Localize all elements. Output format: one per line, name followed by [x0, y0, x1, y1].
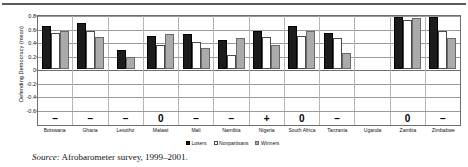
bar: [42, 26, 51, 70]
significance-sign: +: [250, 112, 285, 125]
significance-sign: –: [38, 112, 73, 125]
category-label: Nigeria: [249, 127, 284, 141]
bar-group: [355, 16, 390, 111]
bar-group: [426, 16, 460, 111]
category-label: Malawi: [143, 127, 178, 141]
bar: [306, 31, 315, 69]
significance-sign: –: [73, 112, 108, 125]
category-label: Lesotho: [108, 127, 143, 141]
category-label: South Africa: [284, 127, 319, 141]
bars: [214, 16, 248, 111]
category-label: Ghana: [72, 127, 107, 141]
figure-container: Defending Democracy (mean) 0.80.60.40.20…: [0, 0, 468, 167]
bar-group: [109, 16, 144, 111]
y-tick-label: -0.2: [27, 81, 36, 87]
bars: [426, 16, 460, 111]
bar: [288, 26, 297, 69]
bar-group: [179, 16, 214, 111]
y-tick-label: 0: [33, 67, 36, 73]
y-tick-label: 0.8: [28, 13, 36, 19]
bar: [236, 38, 245, 69]
significance-sign: [355, 112, 390, 125]
category-label: Uganda: [355, 127, 390, 141]
bar-groups: [38, 16, 460, 111]
bar: [412, 18, 421, 69]
significance-sign: –: [109, 112, 144, 125]
significance-sign: 0: [285, 112, 320, 125]
bars: [320, 16, 354, 111]
category-label: Zambia: [390, 127, 425, 141]
bar: [253, 31, 262, 70]
bar-group: [38, 16, 73, 111]
bar: [342, 53, 351, 70]
bar-group: [73, 16, 108, 111]
bar: [77, 23, 86, 69]
category-label: Namibia: [214, 127, 249, 141]
source-label: Source:: [32, 152, 60, 162]
y-tick-label: -0.6: [27, 108, 36, 114]
bar: [447, 38, 456, 70]
y-axis-title: Defending Democracy (mean): [18, 0, 24, 139]
bar: [297, 36, 306, 69]
bar-group: [214, 16, 249, 111]
legend-item: Winners: [255, 140, 279, 146]
bar: [156, 45, 165, 69]
significance-sign: –: [214, 112, 249, 125]
bar: [183, 34, 192, 69]
bar: [60, 31, 69, 70]
legend-item: Losers: [186, 140, 207, 146]
bar: [324, 33, 333, 69]
bar: [201, 48, 210, 69]
bar: [192, 42, 201, 70]
bar: [394, 17, 403, 70]
bar: [403, 20, 412, 70]
bar-group: [144, 16, 179, 111]
category-label: Mali: [178, 127, 213, 141]
bars: [144, 16, 178, 111]
legend-label: Winners: [261, 140, 279, 146]
bar-group: [285, 16, 320, 111]
legend-label: Nonpartisans: [219, 140, 248, 146]
bars: [109, 16, 143, 111]
bar: [117, 50, 126, 69]
significance-sign: –: [320, 112, 355, 125]
bars: [285, 16, 319, 111]
bars: [38, 16, 72, 111]
bars: [355, 16, 389, 111]
bar: [429, 17, 438, 69]
significance-sign: 0: [144, 112, 179, 125]
bar: [86, 31, 95, 70]
category-label: Botswana: [37, 127, 72, 141]
significance-sign: –: [179, 112, 214, 125]
bars: [250, 16, 284, 111]
bar: [271, 45, 280, 70]
bar: [333, 38, 342, 69]
chart-legend: LosersNonpartisansWinners: [186, 140, 279, 146]
bar: [165, 34, 174, 69]
bar-group: [250, 16, 285, 111]
legend-swatch-icon: [214, 141, 218, 145]
source-text: Afrobarometer survey, 1999–2001.: [60, 152, 188, 162]
y-tick-label: 0.6: [28, 27, 36, 33]
bar: [227, 55, 236, 70]
y-tick-label: -0.4: [27, 94, 36, 100]
legend-item: Nonpartisans: [214, 140, 249, 146]
bar: [51, 33, 60, 70]
bars: [391, 16, 425, 111]
bar-group: [391, 16, 426, 111]
y-tick-label: 0.4: [28, 40, 36, 46]
x-axis-category-labels: BotswanaGhanaLesothoMalawiMaliNamibiaNig…: [37, 127, 461, 141]
bar: [218, 40, 227, 70]
significance-sign-row: –––0––+0–0–: [37, 112, 461, 126]
bars: [179, 16, 213, 111]
bar: [438, 31, 447, 69]
chart-plot-area: Defending Democracy (mean) 0.80.60.40.20…: [37, 15, 461, 112]
significance-sign: 0: [391, 112, 426, 125]
legend-swatch-icon: [186, 141, 190, 145]
legend-label: Losers: [192, 140, 207, 146]
bar: [262, 37, 271, 70]
legend-swatch-icon: [255, 141, 259, 145]
bar: [126, 57, 135, 69]
top-rule-divider: [2, 3, 466, 5]
bar: [147, 36, 156, 69]
